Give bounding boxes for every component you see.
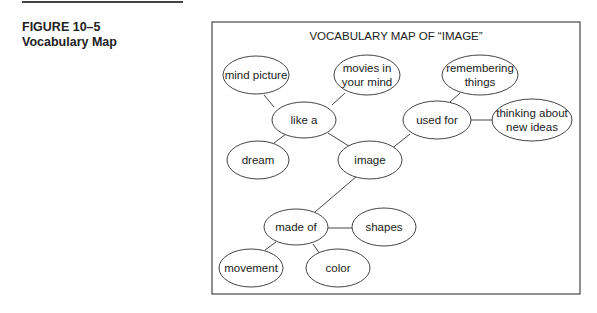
edge-like-movies: [332, 93, 345, 105]
svg-text:movement: movement: [224, 262, 278, 274]
svg-text:movies in: movies in: [343, 62, 392, 74]
edge-like-mind: [264, 95, 274, 107]
svg-text:new ideas: new ideas: [506, 121, 558, 133]
nodes: mind picture movies in your mind like a …: [219, 55, 572, 287]
node-dream: dream: [227, 141, 289, 179]
edge-made-movement: [265, 242, 276, 250]
node-remembering-things: remembering things: [442, 55, 518, 95]
svg-text:thinking about: thinking about: [496, 107, 568, 119]
edge-used-remember: [450, 93, 460, 102]
svg-text:shapes: shapes: [365, 221, 402, 233]
svg-text:image: image: [354, 154, 385, 166]
svg-text:used for: used for: [416, 114, 458, 126]
node-made-of: made of: [264, 209, 328, 245]
svg-text:mind picture: mind picture: [225, 69, 288, 81]
node-shapes: shapes: [352, 208, 416, 246]
node-like-a: like a: [272, 102, 336, 138]
edge-like-dream: [274, 134, 286, 143]
node-used-for: used for: [403, 101, 471, 139]
node-movies-in-your-mind: movies in your mind: [334, 55, 400, 95]
node-color: color: [306, 249, 370, 287]
node-movement: movement: [219, 249, 283, 287]
node-image: image: [338, 141, 402, 179]
node-thinking-about-new-ideas: thinking about new ideas: [492, 99, 572, 141]
svg-text:like a: like a: [291, 114, 318, 126]
svg-text:dream: dream: [242, 154, 275, 166]
node-mind-picture: mind picture: [223, 56, 289, 94]
svg-text:color: color: [326, 262, 351, 274]
vocabulary-map-diagram: VOCABULARY MAP OF “IMAGE” mind picture m…: [0, 0, 597, 313]
svg-text:things: things: [465, 76, 496, 88]
svg-text:remembering: remembering: [446, 62, 514, 74]
svg-text:made of: made of: [275, 221, 317, 233]
svg-text:your mind: your mind: [342, 76, 393, 88]
edge-image-made: [315, 176, 357, 212]
diagram-title: VOCABULARY MAP OF “IMAGE”: [309, 30, 482, 42]
